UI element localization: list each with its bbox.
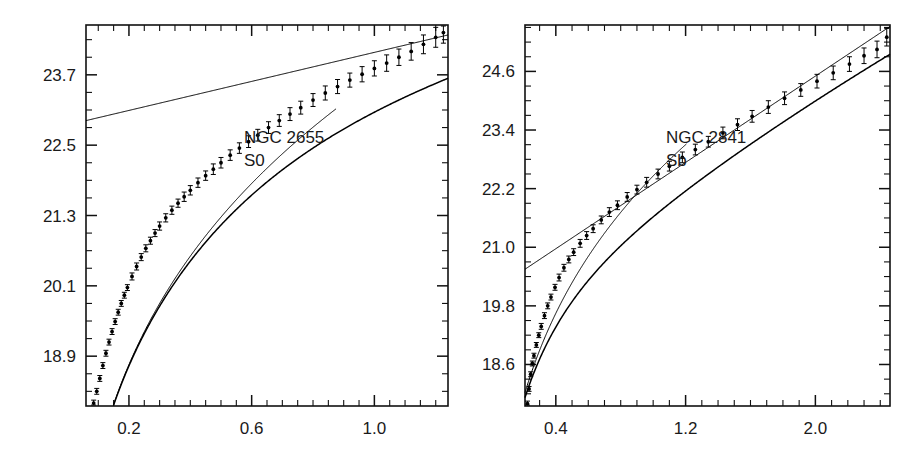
data-point	[113, 320, 117, 324]
data-point	[110, 330, 114, 334]
data-point	[323, 91, 327, 95]
data-point	[831, 71, 835, 75]
data-point	[539, 324, 543, 328]
x-tick-label: 1.2	[674, 419, 698, 438]
data-point	[549, 295, 553, 299]
data-point	[122, 293, 126, 297]
data-point	[92, 401, 96, 405]
data-point	[170, 208, 174, 212]
data-point	[434, 35, 438, 39]
data-point	[766, 105, 770, 109]
data-point	[848, 62, 852, 66]
data-point	[211, 167, 215, 171]
data-point	[862, 54, 866, 58]
data-point	[875, 48, 879, 52]
panel-title-ngc2655: NGC 2655	[244, 128, 324, 147]
y-tick-label: 21.3	[43, 207, 76, 226]
data-point	[645, 180, 649, 184]
data-point	[360, 72, 364, 76]
y-tick-label: 18.6	[482, 355, 515, 374]
data-point	[422, 42, 426, 46]
data-point	[277, 119, 281, 123]
data-point	[196, 181, 200, 185]
axis-ticks-right	[525, 25, 890, 406]
data-point	[219, 161, 223, 165]
data-point	[144, 246, 148, 250]
disk-component-curve	[86, 35, 448, 121]
data-point	[527, 387, 531, 391]
x-tick-label: 0.2	[117, 419, 141, 438]
data-point	[311, 98, 315, 102]
data-point	[299, 106, 303, 110]
figure-surface-brightness-profiles: 18.920.121.322.523.7 0.20.61.0 NGC 2655 …	[0, 0, 923, 461]
data-point	[537, 333, 541, 337]
data-point	[529, 372, 533, 376]
bulge-component-curve	[113, 109, 336, 405]
plot-ngc2655: 18.920.121.322.523.7 0.20.61.0 NGC 2655 …	[0, 0, 462, 461]
data-point	[736, 123, 740, 127]
panel-ngc2841: 18.619.821.022.223.424.6 0.41.22.0 NGC 2…	[461, 0, 923, 461]
y-tick-labels-left: 18.920.121.322.523.7	[43, 66, 76, 366]
data-point	[530, 362, 534, 366]
data-point	[607, 210, 611, 214]
panel-title-ngc2841: NGC 2841	[666, 128, 746, 147]
x-tick-label: 2.0	[804, 419, 828, 438]
data-points-left	[91, 26, 446, 405]
data-point	[348, 78, 352, 82]
y-tick-label: 24.6	[482, 62, 515, 81]
data-point	[532, 354, 536, 358]
fit-curves-left	[86, 35, 448, 405]
data-point	[557, 276, 561, 280]
data-point	[135, 265, 139, 269]
data-point	[126, 286, 130, 290]
data-point	[101, 364, 105, 368]
data-point	[188, 188, 192, 192]
data-point	[750, 114, 754, 118]
data-point	[656, 172, 660, 176]
data-point	[237, 146, 241, 150]
data-point	[616, 203, 620, 207]
data-point	[288, 112, 292, 116]
data-point	[543, 314, 547, 318]
data-point	[534, 343, 538, 347]
data-point	[553, 285, 557, 289]
axes-frame-left	[86, 25, 448, 406]
data-point	[885, 35, 889, 39]
data-point	[585, 234, 589, 238]
panel-subtitle-ngc2841: Sb	[666, 151, 687, 170]
y-tick-label: 23.4	[482, 121, 515, 140]
y-tick-label: 19.8	[482, 297, 515, 316]
data-point	[182, 195, 186, 199]
data-point	[625, 195, 629, 199]
x-tick-labels-right: 0.41.22.0	[544, 419, 827, 438]
data-point	[599, 218, 603, 222]
data-point	[98, 377, 102, 381]
data-point	[139, 255, 143, 259]
x-tick-labels-left: 0.20.61.0	[117, 419, 386, 438]
data-point	[815, 79, 819, 83]
data-point	[95, 389, 99, 393]
y-tick-label: 22.5	[43, 136, 76, 155]
axis-ticks-left	[86, 25, 448, 406]
x-tick-label: 1.0	[363, 419, 387, 438]
data-point	[526, 402, 530, 406]
panel-subtitle-ngc2655: S0	[244, 151, 265, 170]
data-point	[441, 31, 445, 35]
data-point	[591, 227, 595, 231]
y-tick-label: 18.9	[43, 347, 76, 366]
y-tick-label: 22.2	[482, 180, 515, 199]
data-point	[546, 304, 550, 308]
data-point	[385, 61, 389, 65]
data-point	[119, 302, 123, 306]
fit-curves-right	[525, 26, 890, 397]
data-point	[153, 231, 157, 235]
y-tick-label: 20.1	[43, 277, 76, 296]
data-point	[149, 239, 153, 243]
data-point	[336, 85, 340, 89]
data-point	[799, 88, 803, 92]
y-tick-label: 23.7	[43, 66, 76, 85]
data-point	[104, 351, 108, 355]
data-point	[783, 96, 787, 100]
plot-ngc2841: 18.619.821.022.223.424.6 0.41.22.0 NGC 2…	[461, 0, 923, 461]
bulge-component-curve	[525, 144, 686, 393]
